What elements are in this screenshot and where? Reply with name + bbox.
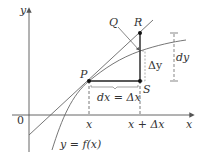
point-p-label: P <box>79 68 88 81</box>
q-pointer-arrow <box>118 27 139 50</box>
origin-label: 0 <box>17 114 24 127</box>
point-r-label: R <box>133 16 142 29</box>
delta-y-label: Δy <box>148 59 163 72</box>
dx-brace <box>91 85 138 89</box>
curve-label: y = f(x) <box>59 138 101 151</box>
point-q-label: Q <box>109 16 118 29</box>
x-tick-label: x <box>86 118 93 131</box>
point-r <box>138 31 142 35</box>
dy-label: dy <box>176 51 190 64</box>
x-plus-dx-tick-label: x + Δx <box>128 118 165 131</box>
dx-label: dx = Δx <box>97 91 141 104</box>
point-p <box>87 79 91 83</box>
y-axis-label: y <box>19 4 27 17</box>
x-axis-label: x <box>186 118 193 131</box>
point-s-label: S <box>143 83 151 96</box>
differential-diagram: y x 0 P Q R S dx = Δx Δy dy x x + Δx y =… <box>0 0 205 160</box>
delta-y-bracket <box>142 51 145 81</box>
point-s <box>138 79 142 83</box>
